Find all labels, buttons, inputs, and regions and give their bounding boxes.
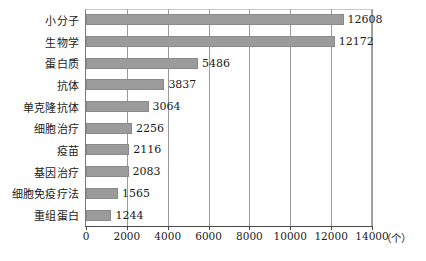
- bar: [86, 36, 335, 47]
- category-label: 蛋白质: [0, 55, 79, 71]
- bar-rows: 小分子12608生物学12172蛋白质5486抗体3837单克隆抗体3064细胞…: [0, 9, 426, 226]
- bar-value-label: 12608: [348, 13, 383, 26]
- bar-value-label: 5486: [202, 57, 230, 70]
- category-label: 细胞治疗: [0, 120, 79, 136]
- category-label: 小分子: [0, 12, 79, 28]
- x-tick-label: 0: [83, 230, 90, 242]
- x-tick-label: 6000: [195, 230, 222, 242]
- bar-row: 抗体3837: [0, 74, 426, 96]
- bar-group: 2256: [86, 117, 164, 139]
- bar: [86, 123, 132, 134]
- bar: [86, 58, 198, 69]
- bar-group: 3064: [86, 96, 181, 118]
- bar-row: 生物学12172: [0, 31, 426, 53]
- bar-group: 12172: [86, 31, 374, 53]
- bar: [86, 144, 129, 155]
- x-tick-label: 4000: [154, 230, 181, 242]
- bar-value-label: 1565: [122, 187, 150, 200]
- x-tick-label: 12000: [314, 230, 347, 242]
- category-label: 重组蛋白: [0, 207, 79, 223]
- bar-value-label: 1244: [115, 209, 143, 222]
- bar-row: 细胞治疗2256: [0, 117, 426, 139]
- bar-value-label: 2256: [136, 122, 164, 135]
- bar-group: 3837: [86, 74, 196, 96]
- bar: [86, 210, 111, 221]
- bar-group: 12608: [86, 9, 383, 31]
- bar-value-label: 3837: [168, 78, 196, 91]
- bar-chart: 小分子12608生物学12172蛋白质5486抗体3837单克隆抗体3064细胞…: [0, 0, 426, 261]
- bar: [86, 101, 149, 112]
- bar: [86, 188, 118, 199]
- bar-group: 5486: [86, 52, 230, 74]
- bar-row: 单克隆抗体3064: [0, 96, 426, 118]
- x-axis-line: [85, 226, 373, 227]
- bar-group: 1244: [86, 204, 143, 226]
- bar-value-label: 2083: [133, 165, 161, 178]
- bar: [86, 166, 129, 177]
- x-tick-label: 2000: [113, 230, 140, 242]
- bar-group: 2083: [86, 161, 161, 183]
- bar-row: 疫苗2116: [0, 139, 426, 161]
- bar-value-label: 2116: [133, 143, 161, 156]
- category-label: 单克隆抗体: [0, 99, 79, 115]
- bar-value-label: 3064: [153, 100, 181, 113]
- x-tick-label: 8000: [236, 230, 263, 242]
- bar-group: 2116: [86, 139, 161, 161]
- bar-group: 1565: [86, 183, 150, 205]
- bar-row: 基因治疗2083: [0, 161, 426, 183]
- category-label: 细胞免疫疗法: [0, 185, 79, 201]
- category-label: 抗体: [0, 77, 79, 93]
- bar-value-label: 12172: [339, 35, 374, 48]
- bar-row: 重组蛋白1244: [0, 204, 426, 226]
- bar: [86, 14, 344, 25]
- bar: [86, 79, 164, 90]
- bar-row: 细胞免疫疗法1565: [0, 183, 426, 205]
- category-label: 疫苗: [0, 142, 79, 158]
- unit-label: （个）: [381, 230, 411, 245]
- bar-row: 小分子12608: [0, 9, 426, 31]
- category-label: 基因治疗: [0, 164, 79, 180]
- bar-row: 蛋白质5486: [0, 52, 426, 74]
- x-tick-label: 10000: [274, 230, 307, 242]
- category-label: 生物学: [0, 34, 79, 50]
